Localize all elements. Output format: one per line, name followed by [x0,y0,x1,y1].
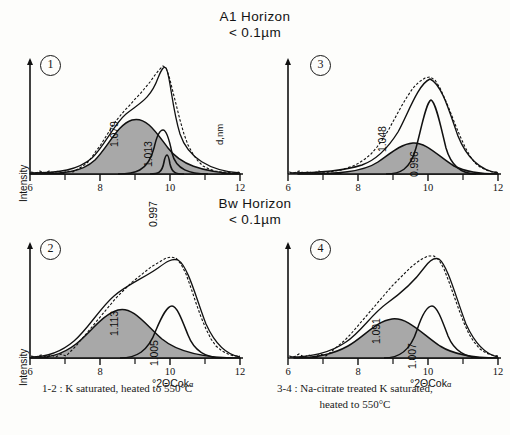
panel-2-peak-label-1005: 1.005 [148,340,160,366]
panel-3-component-broad-shaded [298,143,498,174]
group-heading-a1: A1 Horizon < 0.1µm [0,9,510,41]
panel-3-tick-12: 12 [493,182,504,192]
panel-2-component-broad-shaded [30,309,240,358]
panel-4-number: 4 [310,239,331,260]
panel-3-tick-8: 8 [355,182,360,192]
panel-2: 2 Intensity 1.113 1.005 [0,236,250,376]
panel-3-peak-label-1048: 1.048 [376,126,388,152]
caption-right-line1: 3-4 : Na-citrate treated K saturated, [277,381,433,397]
panel-2-tick-8: 8 [97,366,102,376]
panel-2-plot: 6 8 10 12 [0,236,250,376]
panel-1-peak-label-0997: 0.997 [147,201,159,227]
panel-4-peak-label-1007: 1.007 [406,343,418,369]
panel-3-peak-label-0996: 0.996 [408,151,420,177]
panel-4: 4 1.091 1.007 [258,236,508,376]
panel-4-tick-10: 10 [423,366,434,376]
panel-1-peak-label-1079: 1.079 [108,121,120,147]
group-subtitle-a1: < 0.1µm [0,25,510,41]
caption-right: 3-4 : Na-citrate treated K saturated, he… [277,381,433,413]
panel-1-number: 1 [40,55,61,76]
panel-3-tick-6: 6 [285,182,290,192]
panel-1: 1 Intensity d,nm 1.079 1.013 0.997 [0,52,250,192]
panel-1-tick-10: 10 [165,182,176,192]
panel-3-plot: 6 8 10 12 [258,52,508,192]
panel-2-tick-10: 10 [165,366,176,376]
panel-4-tick-6: 6 [285,366,290,376]
group-title-a1: A1 Horizon [220,9,291,24]
panel-3-number: 3 [310,55,331,76]
panel-2-tick-12: 12 [235,366,246,376]
panel-4-plot: 6 8 10 12 [258,236,508,376]
panel-2-number: 2 [40,239,61,260]
panel-3: 3 1.048 0.996 [258,52,508,192]
panel-2-y-axis-label: Intensity [18,349,29,386]
panel-1-tick-8: 8 [97,182,102,192]
panel-1-peak-label-1013: 1.013 [142,141,154,167]
panel-1-y-axis-label: Intensity [18,165,29,202]
caption-left: 1-2 : K saturated, heated to 550°C [42,381,192,397]
panel-4-x-axis-label-sub: α [447,380,451,389]
group-title-bw: Bw Horizon [218,196,291,211]
panel-2-peak-label-1113: 1.113 [108,311,120,336]
panel-3-tick-10: 10 [423,182,434,192]
panel-4-peak-label-1091: 1.091 [370,318,382,344]
panel-1-d-label: d,nm [214,124,225,145]
panel-4-tick-12: 12 [493,366,504,376]
group-subtitle-bw: < 0.1µm [0,212,510,228]
group-heading-bw: Bw Horizon < 0.1µm [0,196,510,228]
panel-4-tick-8: 8 [355,366,360,376]
caption-left-text: 1-2 : K saturated, heated to 550°C [42,382,192,394]
xrd-figure: A1 Horizon < 0.1µm Bw Horizon < 0.1µm 1 … [0,0,510,435]
panel-1-tick-12: 12 [235,182,246,192]
panel-1-plot: 6 8 10 12 [0,52,250,192]
caption-right-line2: heated to 550°C [277,397,433,413]
